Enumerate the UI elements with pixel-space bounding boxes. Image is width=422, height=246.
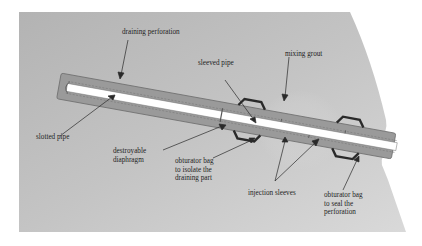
label-draining-perforation: draining perforation <box>122 28 180 37</box>
label-obturator-bag-isolate: obturator bag to isolate the draining pa… <box>175 157 214 183</box>
perforation-diagram: draining perforation mixing grout sleeve… <box>0 0 422 246</box>
label-injection-sleeves: injection sleeves <box>248 189 296 198</box>
label-obturator-bag-seal: obturator bag to seal the perforation <box>324 191 363 217</box>
label-mixing-grout: mixing grout <box>285 50 322 59</box>
label-sleeved-pipe: sleeved pipe <box>198 59 234 68</box>
label-slotted-pipe: slotted pipe <box>36 133 69 142</box>
label-destroyable-diaphragm: destroyable diaphragm <box>113 147 146 164</box>
